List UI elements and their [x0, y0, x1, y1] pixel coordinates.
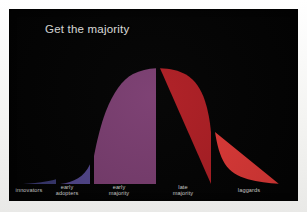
segment-label-innovators: innovators	[16, 187, 43, 193]
segment-label-row: innovators early adopters early majority…	[9, 9, 298, 201]
segment-label-early-majority: early majority	[109, 184, 129, 197]
slide-canvas: Get the majority	[0, 0, 307, 212]
segment-label-laggards: laggards	[238, 187, 260, 193]
segment-label-early-adopters: early adopters	[56, 184, 79, 197]
segment-label-late-majority: late majority	[173, 184, 193, 197]
chart-plot-area: Get the majority	[9, 9, 298, 201]
